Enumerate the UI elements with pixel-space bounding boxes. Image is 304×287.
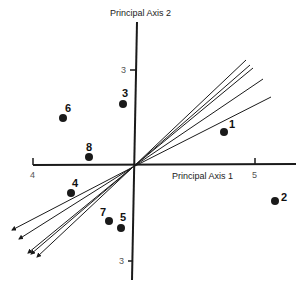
data-point-2 xyxy=(271,197,279,205)
data-point-label-3: 3 xyxy=(122,88,128,99)
vector-upper-4 xyxy=(133,79,263,167)
principal-axis-2-line xyxy=(132,22,137,280)
y-tick-label-upper-3: 3 xyxy=(121,66,126,75)
x-tick-label-5: 5 xyxy=(252,171,257,180)
biplot-canvas xyxy=(0,0,304,287)
data-point-4 xyxy=(67,189,75,197)
principal-axis-1-label: Principal Axis 1 xyxy=(172,172,233,181)
data-point-label-7: 7 xyxy=(100,207,106,218)
vector-arrow-2 xyxy=(28,167,133,253)
y-tick-label-lower-3: 3 xyxy=(119,257,124,266)
data-point-label-4: 4 xyxy=(72,178,78,189)
principal-axis-2-label: Principal Axis 2 xyxy=(110,9,171,18)
vector-arrow-3 xyxy=(37,167,133,257)
data-point-label-1: 1 xyxy=(229,119,235,130)
data-points xyxy=(59,100,279,232)
data-point-label-5: 5 xyxy=(120,212,126,223)
vector-upper-1 xyxy=(133,60,246,167)
data-point-1 xyxy=(220,128,228,136)
x-tick-label-4: 4 xyxy=(30,171,35,180)
variable-vectors xyxy=(12,60,271,257)
data-point-label-2: 2 xyxy=(281,192,287,203)
data-point-5 xyxy=(117,224,125,232)
data-point-label-8: 8 xyxy=(86,142,92,153)
data-point-3 xyxy=(119,100,127,108)
data-point-label-6: 6 xyxy=(65,103,71,114)
data-point-6 xyxy=(59,114,67,122)
data-point-8 xyxy=(85,153,93,161)
data-point-7 xyxy=(105,217,113,225)
vector-upper-3 xyxy=(133,68,253,167)
principal-axis-1-line xyxy=(33,164,296,165)
